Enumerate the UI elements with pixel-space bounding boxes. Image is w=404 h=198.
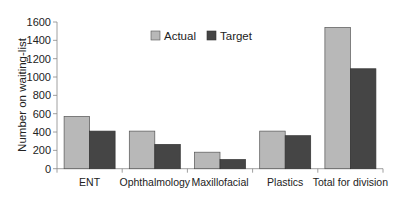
y-tick-label: 1600 [27, 16, 51, 28]
x-category-label: Maxillofacial [191, 176, 248, 188]
bar-target-maxillofacial [220, 160, 246, 169]
y-tick-label: 400 [33, 126, 51, 138]
y-tick-label: 1400 [27, 34, 51, 46]
x-axis: ENTOphthalmologyMaxillofacialPlasticsTot… [57, 169, 388, 188]
y-tick-label: 1000 [27, 71, 51, 83]
x-category-label: ENT [79, 176, 101, 188]
legend: Actual Target [151, 30, 253, 42]
bar-target-ent [90, 131, 116, 169]
bar-actual-plastics [260, 131, 286, 169]
x-category-label: Total for division [313, 176, 388, 188]
y-axis: 02004006008001000120014001600 [27, 16, 57, 175]
bar-actual-ent [64, 116, 90, 168]
bar-actual-total-for-division [325, 28, 351, 169]
y-tick-label: 200 [33, 144, 51, 156]
bar-actual-ophthalmology [129, 131, 155, 169]
legend-label-target: Target [220, 30, 253, 42]
legend-swatch-actual [151, 31, 160, 40]
x-category-label: Ophthalmology [119, 176, 190, 188]
y-tick-label: 1200 [27, 53, 51, 65]
chart-canvas: Number on waiting-list 02004006008001000… [0, 0, 404, 198]
bar-target-total-for-division [350, 69, 376, 169]
y-tick-label: 600 [33, 108, 51, 120]
bar-target-ophthalmology [155, 144, 181, 168]
x-category-label: Plastics [267, 176, 303, 188]
y-tick-label: 800 [33, 89, 51, 101]
legend-label-actual: Actual [164, 30, 196, 42]
bar-target-plastics [285, 136, 311, 169]
waiting-list-bar-chart: Number on waiting-list 02004006008001000… [0, 0, 404, 198]
legend-swatch-target [207, 31, 216, 40]
bar-actual-maxillofacial [195, 152, 221, 169]
y-tick-label: 0 [45, 163, 51, 175]
bars [64, 28, 376, 169]
